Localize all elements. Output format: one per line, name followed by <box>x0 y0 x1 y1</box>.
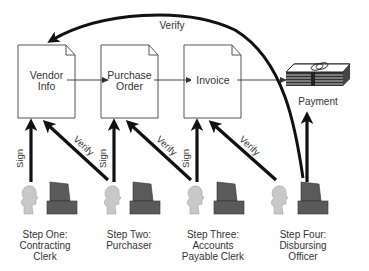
label-line: Officer <box>270 251 336 262</box>
label-line: Payable Clerk <box>180 251 246 262</box>
label-line: Info <box>18 81 75 92</box>
label-line: Step One: <box>10 229 80 240</box>
label-line: Step Three: <box>180 229 246 240</box>
label-line: Purchaser <box>96 240 162 251</box>
person-icon-step-one <box>21 186 38 214</box>
label-line: Order <box>101 81 158 92</box>
label-line: Step Four: <box>270 229 336 240</box>
person-icon-step-three <box>187 186 204 214</box>
document-label-vendor-info: Vendor Info <box>18 70 75 92</box>
document-label-purchase-order: Purchase Order <box>101 70 158 92</box>
person-icon-step-two <box>104 186 121 214</box>
label-line: Accounts <box>180 240 246 251</box>
step-label-two: Step Two: Purchaser <box>96 229 162 251</box>
computer-icon-step-three <box>214 182 244 214</box>
computer-icon-step-four <box>298 182 328 214</box>
computer-icon-step-one <box>47 182 77 214</box>
step-label-four: Step Four: Disbursing Officer <box>270 229 336 262</box>
sign-label-step-three: Sign <box>180 149 191 168</box>
label-line: Disbursing <box>270 240 336 251</box>
money-stack-icon <box>286 62 350 86</box>
document-label-invoice: Invoice <box>191 75 235 86</box>
label-line: Invoice <box>191 75 235 86</box>
step-label-one: Step One: Contracting Clerk <box>10 229 80 262</box>
label-line: Step Two: <box>96 229 162 240</box>
sign-label-step-two: Sign <box>97 149 108 168</box>
computer-icon-step-two <box>130 182 160 214</box>
top-verify-label: Verify <box>150 20 194 31</box>
label-line: Contracting <box>10 240 80 251</box>
label-line: Clerk <box>10 251 80 262</box>
sign-label-step-one: Sign <box>14 149 25 168</box>
payment-label: Payment <box>288 96 348 107</box>
step-label-three: Step Three: Accounts Payable Clerk <box>180 229 246 262</box>
person-icon-step-four <box>271 186 288 214</box>
